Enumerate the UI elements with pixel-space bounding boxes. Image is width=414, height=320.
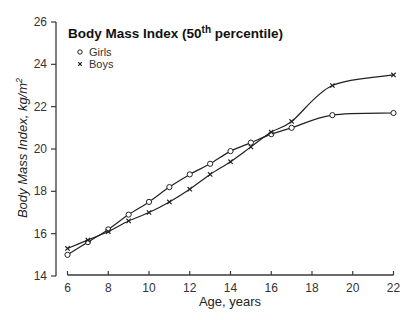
marker-circle-icon — [65, 252, 70, 257]
marker-circle-icon — [167, 185, 172, 190]
y-axis-title: Body Mass Index, kg/m2 — [14, 78, 30, 218]
x-tick-label: 14 — [224, 281, 238, 295]
chart-title-rest: percentile) — [211, 26, 283, 41]
x-tick-label: 12 — [183, 281, 197, 295]
series-layer — [65, 73, 396, 258]
series-line — [68, 113, 394, 255]
y-tick-label: 20 — [34, 142, 48, 156]
x-tick-label: 6 — [64, 281, 71, 295]
marker-circle-icon — [146, 199, 151, 204]
marker-x-icon — [330, 83, 334, 87]
x-tick-label: 16 — [265, 281, 279, 295]
marker-x-icon — [126, 219, 130, 223]
x-tick-label: 20 — [346, 281, 360, 295]
legend: GirlsBoys — [78, 46, 114, 70]
y-tick-label: 16 — [34, 227, 48, 241]
y-tick-label: 22 — [34, 100, 48, 114]
y-tick-label: 26 — [34, 15, 48, 29]
marker-circle-icon — [187, 172, 192, 177]
chart-title-superscript: th — [202, 24, 211, 35]
x-tick-label: 10 — [142, 281, 156, 295]
y-axis-title-main: Body Mass Index, kg/m — [15, 83, 30, 218]
x-tick-label: 22 — [387, 281, 401, 295]
chart-title: Body Mass Index (50th percentile) — [68, 24, 283, 41]
marker-circle-icon — [330, 113, 335, 118]
x-axis-title: Age, years — [199, 294, 262, 309]
legend-label: Boys — [89, 58, 114, 70]
series-girls — [65, 110, 396, 257]
y-tick-label: 18 — [34, 184, 48, 198]
legend-item-girls: Girls — [78, 46, 112, 58]
marker-x-icon — [289, 119, 293, 123]
marker-circle-icon — [228, 149, 233, 154]
x-tick-label: 18 — [305, 281, 319, 295]
marker-circle-icon — [126, 212, 131, 217]
marker-circle-icon — [289, 125, 294, 130]
x-tick-label: 8 — [105, 281, 112, 295]
marker-circle-icon — [391, 110, 396, 115]
marker-x-icon — [188, 187, 192, 191]
marker-x-icon — [208, 172, 212, 176]
marker-x-icon — [147, 210, 151, 214]
marker-circle-icon — [78, 50, 82, 54]
chart-title-main: Body Mass Index (50 — [68, 26, 202, 41]
y-tick-label: 14 — [34, 269, 48, 283]
y-tick-label: 24 — [34, 57, 48, 71]
y-axis-title-superscript: 2 — [14, 78, 24, 84]
marker-x-icon — [167, 200, 171, 204]
marker-x-icon — [78, 62, 82, 66]
marker-circle-icon — [208, 161, 213, 166]
bmi-line-chart: 141618202224266810121416182022 Body Mass… — [0, 0, 414, 320]
legend-label: Girls — [89, 46, 112, 58]
legend-item-boys: Boys — [78, 58, 114, 70]
marker-x-icon — [228, 160, 232, 164]
